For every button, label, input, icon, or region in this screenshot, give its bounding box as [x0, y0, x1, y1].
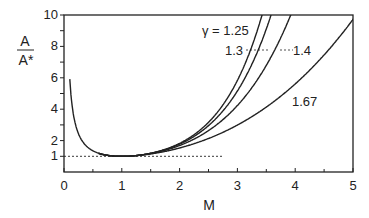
area-mach-chart: 0123451246810 γ = 1.251.31.41.67 M A A* — [0, 0, 369, 218]
y-tick-label: 6 — [51, 70, 58, 85]
y-tick-label: 2 — [51, 133, 58, 148]
label-gamma-1-67: 1.67 — [292, 94, 317, 109]
y-tick-label: 8 — [51, 38, 58, 53]
x-tick-label: 1 — [118, 178, 125, 193]
y-axis-title-denominator: A* — [19, 52, 34, 68]
curve-gamma-1-4 — [99, 6, 295, 157]
label-gamma-1-4: 1.4 — [293, 43, 311, 58]
x-tick-label: 5 — [349, 178, 356, 193]
x-tick-label: 3 — [234, 178, 241, 193]
y-tick-label: 10 — [44, 7, 58, 22]
label-gamma-1-3: 1.3 — [225, 43, 243, 58]
y-tick-label: 1 — [51, 148, 58, 163]
curve-labels-group: γ = 1.251.31.41.67 — [202, 23, 317, 109]
x-axis-title: M — [203, 197, 215, 213]
x-tick-label: 2 — [176, 178, 183, 193]
y-tick-label: 4 — [51, 101, 58, 116]
label-gamma-1-25: γ = 1.25 — [202, 23, 249, 38]
x-tick-label: 0 — [60, 178, 67, 193]
y-axis-title-numerator: A — [20, 33, 30, 49]
y-axis-title: A A* — [17, 33, 34, 68]
x-tick-label: 4 — [292, 178, 299, 193]
